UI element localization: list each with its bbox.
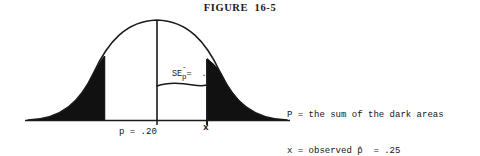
se-value-text: = .05	[186, 69, 216, 79]
se-subscript-letter: p	[182, 73, 186, 81]
legend-line-x: x = observed p̂ = .25	[287, 145, 444, 156]
axis-center-label: p = .20	[119, 126, 157, 138]
se-subscript-phat: ̂p	[182, 72, 186, 82]
observed-x-mark-label: x	[203, 122, 209, 134]
se-prefix-text: SE	[172, 69, 182, 79]
figure-page: FIGURE 16-5 SÊp= .05 p = .20 x P	[0, 0, 480, 156]
standard-error-annotation: SÊp= .05	[152, 59, 216, 89]
left-tail-shaded-area	[28, 56, 104, 120]
legend-block: P = the sum of the dark areas x = observ…	[287, 85, 444, 156]
legend-line-P: P = the sum of the dark areas	[287, 109, 444, 121]
right-tail-shaded-area	[207, 58, 287, 120]
